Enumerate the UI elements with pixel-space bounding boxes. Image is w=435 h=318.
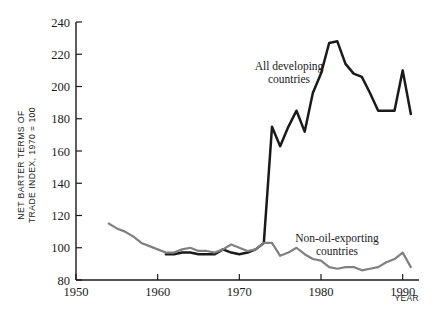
y-tick-label-120: 120 bbox=[51, 209, 70, 223]
y-tick-label-100: 100 bbox=[51, 241, 70, 255]
y-tick-label-140: 140 bbox=[51, 177, 70, 191]
x-axis-ticks bbox=[76, 274, 403, 280]
x-tick-label-1970: 1970 bbox=[227, 285, 252, 299]
series-line-non-oil-exporting-countries bbox=[109, 224, 411, 271]
x-axis-title: YEAR bbox=[395, 293, 419, 303]
x-tick-label-1950: 1950 bbox=[64, 285, 89, 299]
y-tick-label-240: 240 bbox=[51, 16, 70, 30]
x-axis-group: 19501960197019801990 bbox=[64, 274, 420, 299]
y-axis-title-line1: NET BARTER TERMS OF bbox=[16, 110, 26, 219]
y-axis-title-line2: TRADE INDEX, 1970 = 100 bbox=[27, 107, 37, 223]
x-tick-label-1980: 1980 bbox=[309, 285, 334, 299]
y-tick-label-160: 160 bbox=[51, 145, 70, 159]
annotation-all-developing-line2: countries bbox=[268, 73, 311, 85]
annotation-all-developing-line1: All developing bbox=[255, 60, 324, 73]
y-axis-group: 80100120140160180200220240 bbox=[51, 16, 82, 288]
y-tick-label-180: 180 bbox=[51, 112, 70, 126]
x-tick-label-1960: 1960 bbox=[145, 285, 170, 299]
y-axis-tick-labels: 80100120140160180200220240 bbox=[51, 16, 70, 288]
chart-figure: 80100120140160180200220240 1950196019701… bbox=[0, 0, 435, 318]
y-tick-label-200: 200 bbox=[51, 80, 70, 94]
annotation-non-oil-line2: countries bbox=[316, 245, 359, 257]
annotation-non-oil-line1: Non-oil-exporting bbox=[295, 232, 379, 245]
annotation-non-oil-exporting-countries: Non-oil-exporting countries bbox=[295, 232, 379, 257]
annotation-all-developing-countries: All developing countries bbox=[255, 60, 324, 85]
x-axis-tick-labels: 19501960197019801990 bbox=[64, 285, 416, 299]
y-tick-label-220: 220 bbox=[51, 48, 70, 62]
y-axis-title: NET BARTER TERMS OF TRADE INDEX, 1970 = … bbox=[16, 107, 37, 223]
chart-svg: 80100120140160180200220240 1950196019701… bbox=[0, 0, 435, 318]
y-axis-ticks bbox=[76, 22, 82, 280]
